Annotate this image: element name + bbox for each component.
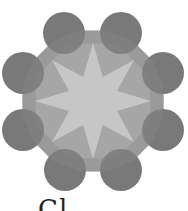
figure-caption: Cl (38, 196, 68, 211)
eight-point-star (35, 43, 151, 159)
rosette-figure (0, 0, 188, 211)
